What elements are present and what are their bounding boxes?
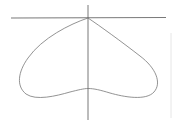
- heart-curve: [19, 18, 157, 98]
- diagram-canvas: [0, 0, 172, 128]
